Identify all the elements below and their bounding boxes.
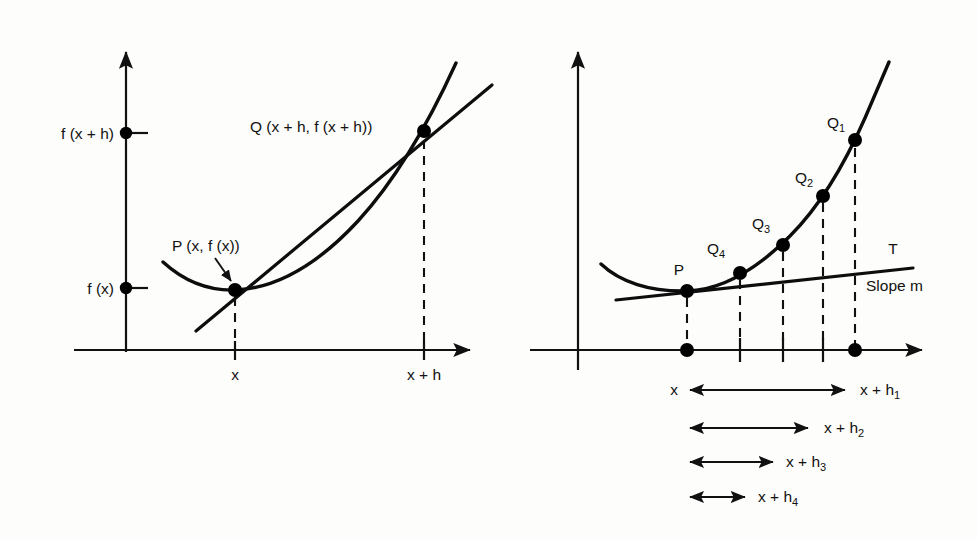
point-p-dot [228, 283, 242, 297]
interval-h3-base: x + h [786, 453, 820, 470]
right-point-q1-label: Q1 [827, 114, 845, 134]
right-x-dot-xh1 [848, 343, 862, 357]
right-point-q3-label: Q3 [752, 215, 770, 235]
left-x-label-xh: x + h [407, 366, 441, 383]
right-point-q1-dot [848, 133, 862, 147]
right-q3-base: Q [752, 215, 764, 232]
right-q1-sub: 1 [839, 122, 845, 134]
interval-h1-left-label: x [670, 381, 678, 398]
right-q4-base: Q [707, 240, 719, 257]
left-x-label-x: x [231, 366, 239, 383]
interval-h1-sub: 1 [894, 389, 900, 401]
left-y-label-fxh: f (x + h) [61, 125, 114, 142]
right-point-p-label: P [674, 261, 684, 278]
left-y-label-fx: f (x) [87, 280, 114, 297]
right-point-q2-label: Q2 [795, 169, 813, 189]
right-q2-sub: 2 [807, 177, 813, 189]
right-point-q4-label: Q4 [707, 240, 725, 260]
right-point-q2-dot [816, 189, 830, 203]
right-curve [601, 62, 889, 291]
interval-h1-base: x + h [860, 381, 894, 398]
interval-h3-right-label: x + h3 [786, 453, 826, 473]
right-q1-base: Q [827, 114, 839, 131]
left-y-dot-fx [120, 282, 132, 294]
interval-h2-base: x + h [824, 419, 858, 436]
right-q4-sub: 4 [719, 248, 725, 260]
point-q-label: Q (x + h, f (x + h)) [250, 118, 372, 135]
interval-h3-sub: 3 [820, 461, 826, 473]
tangent-label-t: T [888, 240, 898, 257]
right-point-p-dot [680, 284, 694, 298]
interval-rows-group: x + h1 --> x x + h1 x + h2 x + h3 x + h4 [670, 381, 900, 508]
interval-h1-right-label: x + h1 [860, 381, 900, 401]
interval-h2-sub: 2 [858, 427, 864, 439]
point-q-dot [417, 124, 431, 138]
right-point-q4-dot [733, 266, 747, 280]
right-q3-sub: 3 [764, 223, 770, 235]
right-q2-base: Q [795, 169, 807, 186]
point-p-callout-arrow [215, 258, 231, 281]
point-p-label: P (x, f (x)) [172, 237, 240, 254]
left-curve [163, 63, 456, 290]
interval-h4-right-label: x + h4 [758, 488, 798, 508]
right-x-dot-x [680, 343, 694, 357]
interval-h4-base: x + h [758, 488, 792, 505]
left-panel-group: f (x + h) f (x) x x + h P (x, f (x)) Q (… [61, 52, 492, 383]
right-panel-group: P Q4 Q3 Q2 Q1 T Slope m [530, 52, 923, 370]
interval-h4-sub: 4 [792, 496, 798, 508]
left-y-dot-fxh [120, 127, 132, 139]
figure-container: f (x + h) f (x) x x + h P (x, f (x)) Q (… [0, 0, 978, 539]
diagram-svg: f (x + h) f (x) x x + h P (x, f (x)) Q (… [0, 0, 978, 539]
slope-label: Slope m [866, 277, 923, 294]
interval-h2-right-label: x + h2 [824, 419, 864, 439]
right-point-q3-dot [776, 238, 790, 252]
